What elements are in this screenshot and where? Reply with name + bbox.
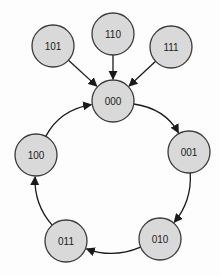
edge-000-001 <box>134 104 179 133</box>
state-node-101: 101 <box>32 25 74 67</box>
node-label: 011 <box>58 236 74 247</box>
edge-101-000 <box>68 60 96 86</box>
node-label: 100 <box>28 150 45 161</box>
state-node-000: 000 <box>92 80 134 122</box>
state-node-011: 011 <box>45 220 87 262</box>
node-label: 110 <box>105 29 121 40</box>
edge-111-000 <box>129 61 156 86</box>
state-node-010: 010 <box>139 218 181 260</box>
edge-100-000 <box>46 105 92 137</box>
state-diagram: 101110111000001010011100 <box>0 0 220 276</box>
node-label: 111 <box>163 42 179 53</box>
node-label: 010 <box>152 234 169 245</box>
diagram-svg: 101110111000001010011100 <box>0 0 220 276</box>
state-node-100: 100 <box>15 134 57 176</box>
state-node-001: 001 <box>168 131 210 173</box>
node-label: 000 <box>105 96 122 107</box>
state-node-111: 111 <box>150 26 192 68</box>
state-node-110: 110 <box>92 13 134 55</box>
edge-011-100 <box>35 177 52 225</box>
edge-001-010 <box>174 173 190 222</box>
node-label: 101 <box>45 41 62 52</box>
node-label: 001 <box>181 147 198 158</box>
edge-010-011 <box>87 247 141 253</box>
